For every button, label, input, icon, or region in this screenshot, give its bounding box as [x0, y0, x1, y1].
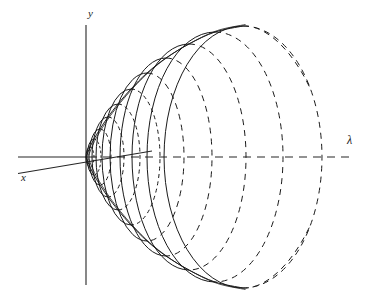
lower-envelope-curve-secondary: [89, 159, 246, 290]
lower-envelope-far-dashed: [243, 226, 310, 288]
cone-surface-figure: y x λ: [0, 0, 379, 306]
x-axis-label: x: [21, 172, 26, 183]
ellipse-far-half-11: [243, 26, 322, 288]
upper-envelope-far-dashed: [243, 26, 310, 88]
lambda-axis-label: λ: [347, 134, 352, 146]
y-axis-label: y: [88, 8, 93, 19]
cone-diagram-canvas: [0, 0, 379, 306]
upper-envelope-curve-secondary: [89, 25, 246, 156]
axes-group: [18, 25, 350, 285]
